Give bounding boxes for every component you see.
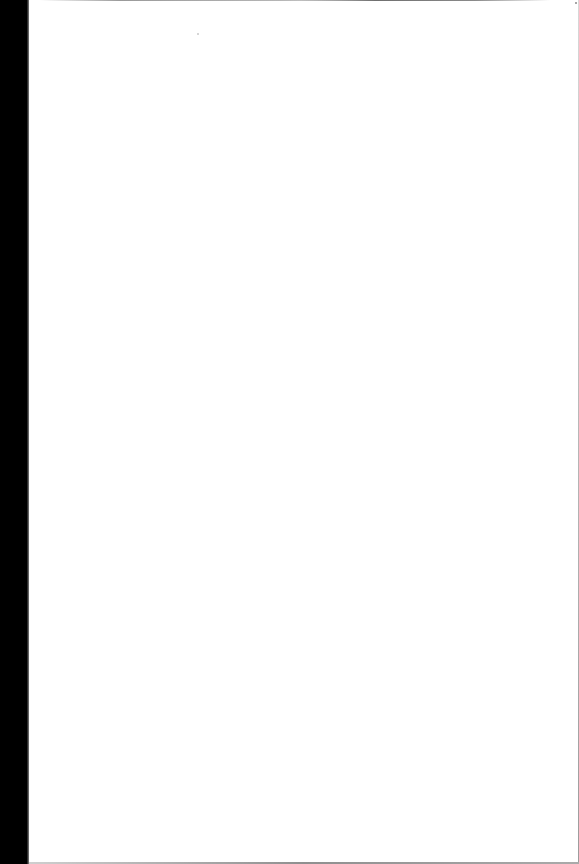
blank-page [29,0,577,863]
scan-margin-left [0,0,28,864]
page-edge-top-right [300,0,550,1]
scan-speck [197,33,199,35]
scan-speck [575,2,577,4]
